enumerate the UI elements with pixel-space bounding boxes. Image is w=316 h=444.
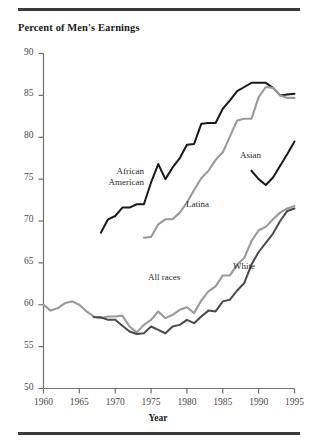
y-tick-label: 55 bbox=[8, 340, 34, 350]
series-label-asian: Asian bbox=[240, 150, 261, 161]
series-label-latina: Latina bbox=[186, 199, 209, 210]
plot-area bbox=[0, 0, 316, 444]
x-tick-label: 1995 bbox=[275, 397, 315, 407]
x-tick-label: 1985 bbox=[203, 397, 243, 407]
y-tick-label: 90 bbox=[8, 47, 34, 57]
chart-figure: Percent of Men's Earnings 50556065707580… bbox=[0, 0, 316, 444]
x-axis-title: Year bbox=[0, 413, 316, 423]
series-label-african-american-line2: American bbox=[84, 177, 144, 188]
x-tick-label: 1965 bbox=[59, 397, 99, 407]
y-tick-label: 80 bbox=[8, 130, 34, 140]
y-tick-label: 70 bbox=[8, 214, 34, 224]
y-tick-label: 65 bbox=[8, 256, 34, 266]
y-tick-label: 85 bbox=[8, 88, 34, 98]
y-tick-label: 60 bbox=[8, 298, 34, 308]
y-tick-label: 75 bbox=[8, 172, 34, 182]
series-line-asian bbox=[251, 141, 294, 185]
series-label-african-american-line1: African bbox=[84, 166, 144, 177]
series-paths bbox=[44, 83, 295, 334]
x-tick-label: 1980 bbox=[167, 397, 207, 407]
series-label-african-american: African American bbox=[84, 166, 144, 187]
series-line-all-races bbox=[44, 206, 295, 332]
series-line-african-american bbox=[101, 83, 295, 233]
bottom-divider-rule bbox=[18, 432, 300, 435]
x-tick-label: 1990 bbox=[239, 397, 279, 407]
y-tick-label: 50 bbox=[8, 382, 34, 392]
x-tick-label: 1960 bbox=[24, 397, 64, 407]
series-line-latina bbox=[144, 87, 295, 238]
series-label-all-races: All races bbox=[148, 272, 180, 283]
series-label-white: White bbox=[233, 261, 255, 272]
x-tick-label: 1970 bbox=[95, 397, 135, 407]
x-tick-label: 1975 bbox=[131, 397, 171, 407]
